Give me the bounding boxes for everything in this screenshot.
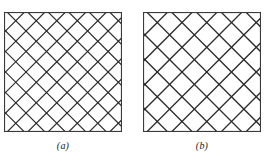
panel-b-caption: (b)	[143, 140, 261, 151]
figure-container: (a) (b)	[0, 0, 266, 162]
figure-panel-a	[4, 12, 122, 132]
figure-panel-b	[143, 12, 261, 132]
panel-a-caption: (a)	[4, 140, 122, 151]
hatched-square-a	[4, 12, 122, 132]
hatched-square-b	[143, 12, 261, 132]
